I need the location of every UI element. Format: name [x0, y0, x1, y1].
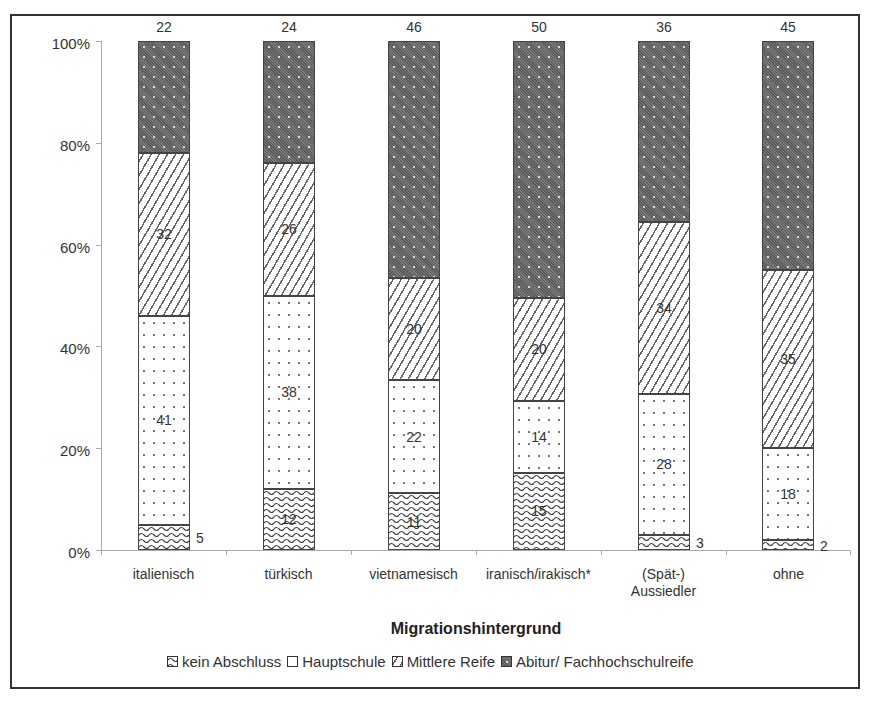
- bar-segment-haupt: 18: [762, 448, 814, 540]
- bar-segment-value: 35: [763, 351, 813, 367]
- x-axis-title: Migrationshintergrund: [101, 620, 851, 638]
- bar-segment-value: 14: [514, 429, 564, 445]
- legend-swatch-wave-icon: [167, 656, 178, 667]
- legend-item-abitur: Abitur/ Fachhochschulreife: [501, 653, 694, 670]
- bar-segment-haupt: 41: [138, 316, 190, 525]
- bar-segment-mittel: 20: [513, 298, 565, 401]
- stacked-bar: 12382624: [263, 41, 315, 550]
- x-category-spaet-aussiedler: (Spät-)Aussiedler: [601, 566, 726, 600]
- bar-top-value: 50: [513, 19, 565, 35]
- bar-segment-value: 11: [389, 514, 439, 530]
- bar-segment-value: 20: [514, 341, 564, 357]
- legend-label: Abitur/ Fachhochschulreife: [516, 653, 694, 670]
- y-label-80: 80%: [60, 137, 90, 154]
- bar-segment-abitur: [263, 41, 315, 163]
- bar-segment-value: 32: [139, 226, 189, 242]
- legend-swatch-dark-icon: [501, 656, 512, 667]
- legend-swatch-hatch-icon: [392, 656, 403, 667]
- x-tick: [601, 550, 602, 555]
- bar-segment-kein: [138, 525, 190, 550]
- y-label-60: 60%: [60, 239, 90, 256]
- x-tick: [226, 550, 227, 555]
- x-category-iranisch-irakisch: iranisch/irakisch*: [476, 566, 601, 583]
- bar-segment-abitur: [762, 41, 814, 270]
- legend-label: Mittlere Reife: [407, 653, 495, 670]
- stacked-bar: 2183545: [762, 41, 814, 550]
- bar-side-value: 2: [820, 538, 828, 554]
- bar-segment-mittel: 20: [388, 278, 440, 381]
- y-label-40: 40%: [60, 340, 90, 357]
- bar-top-value: 46: [388, 19, 440, 35]
- bar-segment-kein: [762, 540, 814, 550]
- bar-segment-haupt: 38: [263, 296, 315, 489]
- bar-segment-value: 18: [763, 486, 813, 502]
- bar-segment-value: 15: [514, 503, 564, 519]
- bar-segment-value: 28: [639, 456, 689, 472]
- stacked-bar: 3283436: [638, 41, 690, 550]
- bar-segment-kein: 15: [513, 473, 565, 550]
- legend: kein Abschluss Hauptschule Mittlere Reif…: [167, 653, 700, 670]
- bar-segment-kein: 11: [388, 493, 440, 550]
- bar-segment-mittel: 34: [638, 222, 690, 393]
- bar-segment-kein: 12: [263, 489, 315, 550]
- bar-segment-mittel: 32: [138, 153, 190, 316]
- x-category-ohne: ohne: [726, 566, 851, 583]
- bar-segment-value: 41: [139, 412, 189, 428]
- x-tick: [726, 550, 727, 555]
- bar-side-value: 3: [696, 535, 704, 551]
- x-category-vietnamesisch: vietnamesisch: [351, 566, 476, 583]
- y-tick: [96, 245, 101, 246]
- y-tick: [96, 41, 101, 42]
- y-axis: [101, 41, 102, 551]
- x-tick: [850, 550, 851, 555]
- legend-item-mittlere-reife: Mittlere Reife: [392, 653, 495, 670]
- bar-segment-abitur: [638, 41, 690, 222]
- x-tick: [351, 550, 352, 555]
- bar-top-value: 24: [263, 19, 315, 35]
- legend-label: Hauptschule: [302, 653, 385, 670]
- bar-top-value: 36: [638, 19, 690, 35]
- bar-segment-mittel: 26: [263, 163, 315, 295]
- bar-segment-haupt: 28: [638, 394, 690, 535]
- bar-segment-haupt: 14: [513, 401, 565, 473]
- legend-swatch-dots-icon: [287, 656, 298, 667]
- stacked-bar: 15142050: [513, 41, 565, 550]
- bar-segment-value: 34: [639, 300, 689, 316]
- x-tick: [476, 550, 477, 555]
- legend-label: kein Abschluss: [182, 653, 281, 670]
- y-tick: [96, 448, 101, 449]
- bar-segment-value: 26: [264, 221, 314, 237]
- legend-item-kein-abschluss: kein Abschluss: [167, 653, 281, 670]
- x-category-italienisch: italienisch: [101, 566, 226, 583]
- bar-segment-abitur: [138, 41, 190, 153]
- y-tick: [96, 143, 101, 144]
- bar-segment-value: 38: [264, 384, 314, 400]
- bar-segment-mittel: 35: [762, 270, 814, 448]
- stacked-bar: 5413222: [138, 41, 190, 550]
- y-label-20: 20%: [60, 442, 90, 459]
- bar-segment-value: 22: [389, 429, 439, 445]
- bar-top-value: 45: [762, 19, 814, 35]
- stacked-bar: 11222046: [388, 41, 440, 550]
- bar-side-value: 5: [196, 530, 204, 546]
- y-label-0: 0%: [68, 544, 90, 561]
- y-label-100: 100%: [52, 35, 90, 52]
- bar-segment-abitur: [513, 41, 565, 298]
- x-category-tuerkisch: türkisch: [226, 566, 351, 583]
- legend-item-hauptschule: Hauptschule: [287, 653, 385, 670]
- bar-segment-value: 20: [389, 321, 439, 337]
- y-tick: [96, 346, 101, 347]
- bar-top-value: 22: [138, 19, 190, 35]
- x-tick: [101, 550, 102, 555]
- bar-segment-kein: [638, 535, 690, 550]
- bar-segment-value: 12: [264, 511, 314, 527]
- bar-segment-abitur: [388, 41, 440, 278]
- bar-segment-haupt: 22: [388, 380, 440, 493]
